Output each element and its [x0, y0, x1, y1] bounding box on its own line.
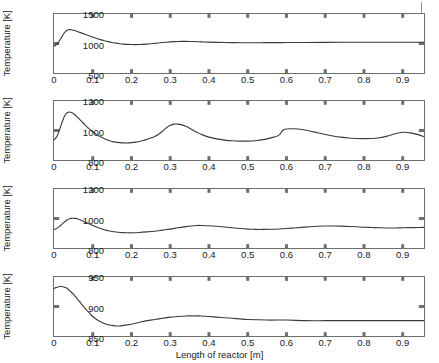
- x-tick-label: 0.3: [164, 337, 177, 348]
- x-axis-label: Length of reactor [m]: [0, 349, 439, 360]
- x-tick-label: 0.6: [280, 74, 293, 85]
- x-tick-label: 0.5: [241, 161, 254, 172]
- subplot-panel-4: Temperature [K] 85090095000.10.20.30.40.…: [0, 276, 439, 337]
- y-tick-label: 1500: [83, 9, 104, 20]
- subplot-panel-2: Temperature [K] 8001000120000.10.20.30.4…: [0, 100, 439, 161]
- x-tick-label: 0.9: [396, 74, 409, 85]
- data-line: [54, 286, 424, 326]
- figure-container: Temperature [K] 5001000150000.10.20.30.4…: [0, 0, 439, 363]
- x-tick-label: 0.8: [357, 74, 370, 85]
- y-tick-label: 1000: [83, 39, 104, 50]
- x-tick-label: 0.3: [164, 161, 177, 172]
- y-tick-label: 950: [88, 272, 104, 283]
- subplot-panel-3: Temperature [K] 8001000120000.10.20.30.4…: [0, 188, 439, 249]
- x-tick-label: 0.1: [86, 337, 99, 348]
- x-tick-label: 0.7: [319, 337, 332, 348]
- x-tick-label: 0.8: [357, 249, 370, 260]
- x-tick-label: 0.2: [125, 249, 138, 260]
- y-tick-label: 1200: [83, 184, 104, 195]
- x-tick-label: 0.6: [280, 249, 293, 260]
- y-tick-label: 1000: [83, 126, 104, 137]
- x-tick-label: 0.3: [164, 74, 177, 85]
- x-tick-label: 0.4: [202, 337, 215, 348]
- x-tick-label: 0.6: [280, 337, 293, 348]
- data-line: [54, 112, 424, 143]
- x-tick-label: 0.2: [125, 74, 138, 85]
- x-tick-label: 0.2: [125, 161, 138, 172]
- x-tick-label: 0.2: [125, 337, 138, 348]
- x-tick-label: 0.5: [241, 249, 254, 260]
- x-tick-label: 0.7: [319, 249, 332, 260]
- y-axis-label-4: Temperature [K]: [0, 276, 13, 337]
- x-tick-label: 0.9: [396, 161, 409, 172]
- x-tick-label: 0.4: [202, 74, 215, 85]
- data-line: [54, 30, 424, 47]
- x-tick-label: 0.7: [319, 74, 332, 85]
- plot-area-2: 8001000120000.10.20.30.40.50.60.70.80.9: [53, 100, 425, 161]
- x-tick-label: 0.5: [241, 337, 254, 348]
- y-tick-label: 1000: [83, 214, 104, 225]
- x-tick-label: 0.4: [202, 249, 215, 260]
- x-tick-label: 0.4: [202, 161, 215, 172]
- x-tick-label: 0.1: [86, 161, 99, 172]
- plot-area-1: 5001000150000.10.20.30.40.50.60.70.80.9: [53, 13, 425, 74]
- x-tick-label: 0.1: [86, 249, 99, 260]
- x-tick-label: 0.3: [164, 249, 177, 260]
- data-line: [54, 218, 424, 233]
- x-tick-label: 0.8: [357, 161, 370, 172]
- x-tick-label: 0.7: [319, 161, 332, 172]
- x-tick-label: 0.9: [396, 337, 409, 348]
- y-axis-label-3: Temperature [K]: [0, 188, 13, 249]
- y-axis-label-1: Temperature [K]: [0, 13, 13, 74]
- y-axis-label-2: Temperature [K]: [0, 100, 13, 161]
- x-tick-label: 0.5: [241, 74, 254, 85]
- plot-area-4: 85090095000.10.20.30.40.50.60.70.80.9: [53, 276, 425, 337]
- x-tick-label: 0: [51, 249, 56, 260]
- x-tick-label: 0: [51, 337, 56, 348]
- plot-svg-4: [54, 277, 424, 336]
- y-tick-label: 900: [88, 302, 104, 313]
- plot-svg-2: [54, 101, 424, 160]
- plot-area-3: 8001000120000.10.20.30.40.50.60.70.80.9: [53, 188, 425, 249]
- x-tick-label: 0: [51, 161, 56, 172]
- x-tick-label: 0: [51, 74, 56, 85]
- plot-svg-3: [54, 189, 424, 248]
- x-tick-label: 0.6: [280, 161, 293, 172]
- y-tick-label: 1200: [83, 96, 104, 107]
- plot-svg-1: [54, 14, 424, 73]
- x-tick-label: 0.9: [396, 249, 409, 260]
- subplot-panel-1: Temperature [K] 5001000150000.10.20.30.4…: [0, 13, 439, 74]
- x-tick-label: 0.8: [357, 337, 370, 348]
- x-tick-label: 0.1: [86, 74, 99, 85]
